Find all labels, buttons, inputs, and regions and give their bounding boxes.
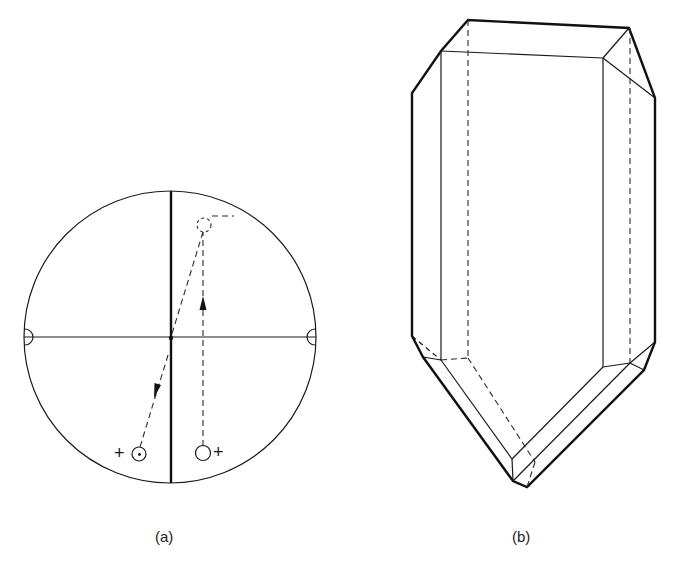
- diagonal-dashed-path-lower: [140, 355, 168, 447]
- diagonal-dashed-path-upper: [171, 232, 203, 337]
- down-arrow-icon: [154, 383, 161, 398]
- up-arrow-icon: [200, 296, 207, 310]
- lower-mid-right-edge: [513, 363, 630, 481]
- right-lower-pole-circle: [196, 446, 211, 461]
- top-right-slope-edge: [603, 28, 629, 58]
- tip-vertical-edge: [512, 459, 513, 481]
- crystal-outline: [412, 20, 655, 487]
- crystal-drawing: [412, 20, 655, 487]
- plus-sign-left: +: [114, 443, 125, 464]
- stereogram: [24, 191, 316, 483]
- left-lower-pole-dot: [138, 453, 141, 456]
- panel-b-label: (b): [512, 528, 530, 545]
- lower-right-corner-edge: [630, 363, 644, 370]
- hidden-lower-left-edge: [412, 336, 441, 360]
- hidden-lower-back-edge: [441, 358, 468, 360]
- figure-canvas: [0, 0, 674, 576]
- top-front-edge: [441, 51, 603, 58]
- panel-a-label: (a): [155, 528, 173, 545]
- upper-pole-dashed-circle: [197, 218, 211, 232]
- center-point: [169, 336, 173, 340]
- lower-front-right-edge: [512, 367, 603, 459]
- plus-sign-right: +: [213, 442, 224, 463]
